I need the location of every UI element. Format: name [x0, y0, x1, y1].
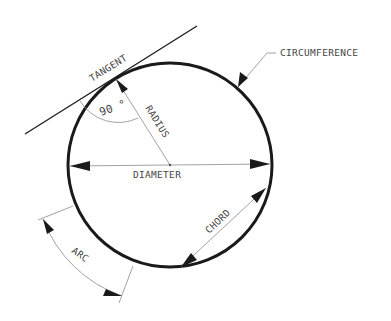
chord-line	[181, 188, 266, 267]
chord-arrowhead-top	[251, 188, 266, 203]
circle-parts-diagram: TANGENT CIRCUMFERENCE RADIUS 90 ° DIAMET…	[0, 0, 391, 321]
arc-arrowhead-lower	[103, 289, 122, 296]
angle-label: 90 °	[98, 97, 128, 119]
center-point	[169, 164, 171, 166]
diameter-label: DIAMETER	[133, 169, 181, 180]
circumference-arrowhead	[238, 72, 248, 87]
circumference-leader	[238, 53, 276, 87]
radius-label: RADIUS	[143, 103, 171, 139]
arc-arrowhead-upper	[43, 219, 54, 234]
chord-label: CHORD	[203, 207, 233, 236]
arc-label: ARC	[70, 245, 91, 264]
diameter-arrowhead-left	[70, 161, 90, 171]
radius-arrowhead	[116, 79, 128, 93]
arc-extension-upper	[38, 206, 73, 220]
diameter-arrowhead-right	[250, 159, 270, 169]
tangent-label: TANGENT	[87, 52, 129, 84]
circumference-label: CIRCUMFERENCE	[280, 47, 358, 58]
arc-extension-lower	[119, 266, 133, 303]
